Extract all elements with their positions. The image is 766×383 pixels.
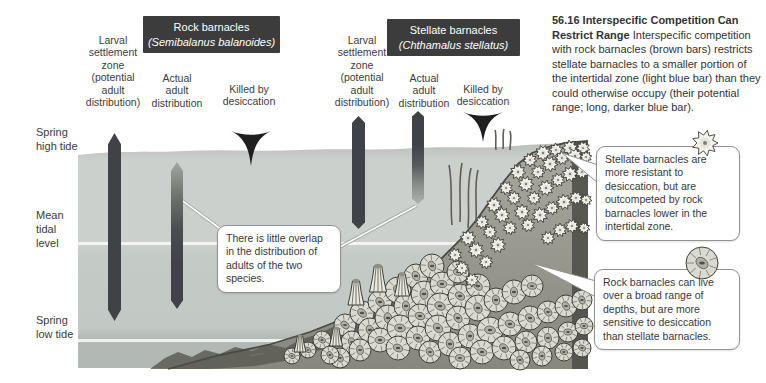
stellate-barnacle-icon <box>688 126 722 160</box>
label-rock-killed: Killed by desiccation <box>199 83 299 108</box>
label-mean-tidal-level: Mean tidal level <box>36 209 108 250</box>
callout-little-overlap: There is little overlap in the distribut… <box>217 225 341 293</box>
bar-stellate-actual-distribution <box>412 111 424 204</box>
bar-rock-potential-distribution <box>108 133 121 321</box>
figure-56-16: Rock barnacles (Semibalanus balanoides) … <box>0 0 766 383</box>
rock-barnacles-species: (Semibalanus balanoides) <box>148 35 275 49</box>
desiccation-arrow-stellate-icon <box>462 110 504 145</box>
rock-barnacles-name: Rock barnacles <box>174 20 250 34</box>
rock-barnacle-icon <box>682 243 722 283</box>
callout-stellate-barnacles: Stellate barnacles are more resistant to… <box>596 146 740 241</box>
stellate-barnacles-name: Stellate barnacles <box>410 23 497 37</box>
bar-stellate-potential-distribution <box>352 116 365 229</box>
header-rock-barnacles: Rock barnacles (Semibalanus balanoides) <box>143 16 280 53</box>
figure-caption: 56.16 Interspecific Competition Can Rest… <box>552 13 762 115</box>
bar-rock-actual-distribution <box>171 162 183 309</box>
label-spring-low-tide: Spring low tide <box>36 314 108 342</box>
label-stellate-killed: Killed by desiccation <box>433 83 533 108</box>
desiccation-arrow-rock-icon <box>230 129 272 169</box>
figure-caption-body: Interspecific competition with rock barn… <box>552 29 761 114</box>
label-spring-high-tide: Spring high tide <box>36 126 108 154</box>
stellate-barnacles-species: (Chthamalus stellatus) <box>399 38 508 52</box>
